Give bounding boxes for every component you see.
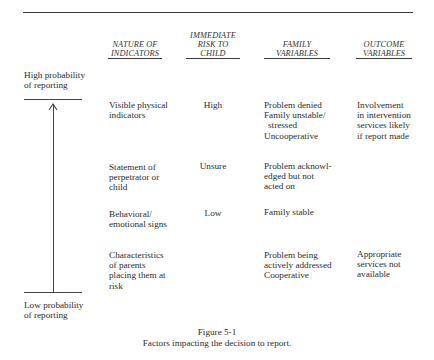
cell-line: actively addressed — [264, 260, 344, 270]
cell-line: Cooperative — [264, 270, 344, 280]
cell-line: if report made — [357, 131, 432, 141]
cell-line: Uncooperative — [264, 131, 344, 141]
low-separator-line — [24, 292, 82, 293]
row-3-family: Family stable — [264, 207, 344, 217]
row-4-outcome: Appropriate services not available — [357, 249, 432, 280]
cell-line: available — [357, 269, 432, 279]
high-separator-line — [24, 99, 82, 100]
cell-line: child — [109, 182, 184, 192]
cell-line: Appropriate — [357, 249, 432, 259]
header-line: INDICATORS — [104, 49, 166, 58]
header-family-variables: FAMILY VARIABLES — [262, 40, 332, 58]
header-line: VARIABLES — [354, 49, 414, 58]
figure-title: Factors impacting the decision to report… — [0, 338, 434, 349]
figure-label: Figure 5-1 — [0, 327, 434, 338]
header-line: IMMEDIATE — [182, 31, 244, 40]
cell-line: Visible physical — [109, 100, 184, 110]
header-line: NATURE OF — [104, 40, 166, 49]
cell-line: Problem being — [264, 250, 344, 260]
cell-line: services likely — [357, 120, 432, 130]
figure-caption: Figure 5-1 Factors impacting the decisio… — [0, 327, 434, 348]
row-2-risk: Unsure — [190, 161, 236, 171]
arrow-shaft — [53, 104, 54, 292]
header-underline — [186, 58, 240, 59]
header-underline — [264, 58, 330, 59]
cell-line: Statement of — [109, 162, 184, 172]
cell-line: stressed — [264, 120, 344, 130]
header-line: FAMILY — [262, 40, 332, 49]
cell-line: Problem denied — [264, 100, 344, 110]
label-line: Low probability — [24, 300, 104, 310]
cell-line: Involvement — [357, 100, 432, 110]
header-line: RISK TO — [182, 40, 244, 49]
cell-line: acted on — [264, 181, 344, 191]
cell-line: Problem acknowl- — [264, 161, 344, 171]
row-2-family: Problem acknowl- edged but not acted on — [264, 161, 344, 192]
label-line: of reporting — [24, 310, 104, 320]
cell-line: edged but not — [264, 171, 344, 181]
label-line: of reporting — [24, 80, 104, 90]
low-probability-label: Low probability of reporting — [24, 300, 104, 320]
cell-line: Family stable — [264, 207, 344, 217]
row-4-nature: Characteristics of parents placing them … — [109, 250, 184, 291]
row-1-outcome: Involvement in intervention services lik… — [357, 100, 432, 141]
cell-line: Characteristics — [109, 250, 184, 260]
row-3-nature: Behavioral/ emotional signs — [109, 209, 184, 229]
row-1-nature: Visible physical indicators — [109, 100, 184, 120]
cell-line: Behavioral/ — [109, 209, 184, 219]
row-1-risk: High — [190, 100, 236, 110]
header-outcome-variables: OUTCOME VARIABLES — [354, 40, 414, 58]
top-rule — [23, 12, 413, 13]
cell-line: emotional signs — [109, 219, 184, 229]
cell-line: risk — [109, 281, 184, 291]
header-line: VARIABLES — [262, 49, 332, 58]
cell-line: in intervention — [357, 110, 432, 120]
cell-line: Family unstable/ — [264, 110, 344, 120]
high-probability-label: High probability of reporting — [24, 70, 104, 90]
cell-line: of parents — [109, 260, 184, 270]
row-4-family: Problem being actively addressed Coopera… — [264, 250, 344, 281]
row-2-nature: Statement of perpetrator or child — [109, 162, 184, 193]
cell-line: services not — [357, 259, 432, 269]
header-immediate-risk: IMMEDIATE RISK TO CHILD — [182, 31, 244, 58]
header-line: CHILD — [182, 49, 244, 58]
cell-line: indicators — [109, 110, 184, 120]
header-line: OUTCOME — [354, 40, 414, 49]
label-line: High probability — [24, 70, 104, 80]
header-underline — [356, 58, 412, 59]
row-1-family: Problem denied Family unstable/ stressed… — [264, 100, 344, 141]
header-nature-of-indicators: NATURE OF INDICATORS — [104, 40, 166, 58]
cell-line: placing them at — [109, 270, 184, 280]
header-underline — [108, 58, 162, 59]
row-3-risk: Low — [190, 208, 236, 218]
cell-line: perpetrator or — [109, 172, 184, 182]
